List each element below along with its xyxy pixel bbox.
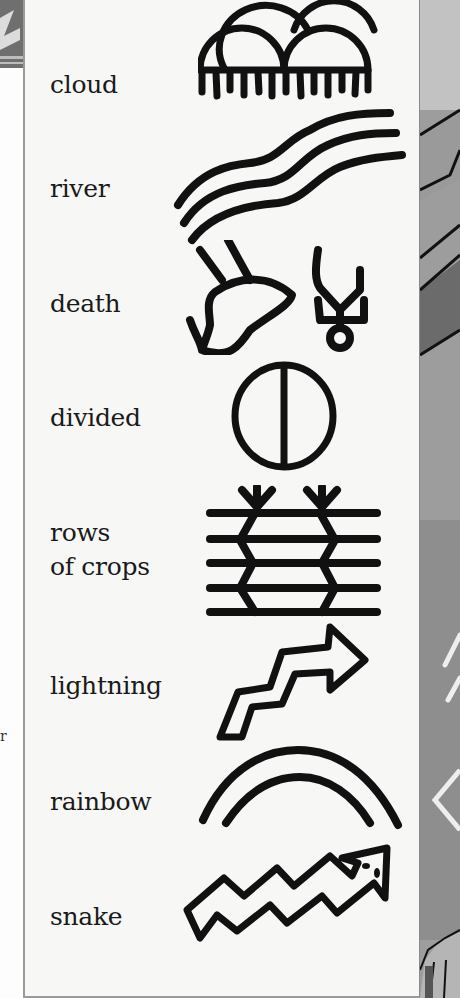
background-illustration [419,0,460,998]
rainbow-symbol-icon [198,745,408,845]
label-divided: divided [50,404,141,432]
left-page-margin [0,0,24,998]
lightning-symbol-icon [210,622,370,742]
snake-symbol-icon [182,838,392,953]
rows-of-crops-symbol-icon [205,485,385,620]
divided-circle-symbol-icon [230,360,340,475]
label-river: river [50,175,109,203]
river-symbol-icon [170,105,410,245]
label-lightning: lightning [50,672,162,700]
label-rows: rows [50,519,110,547]
death-symbol-icon [180,240,380,355]
corner-decoration [0,0,23,68]
label-of-crops: of crops [50,553,150,581]
label-death: death [50,290,120,318]
cloud-symbol-icon [198,0,388,100]
margin-mark: r [0,728,7,744]
label-snake: snake [50,903,122,931]
label-rainbow: rainbow [50,788,151,816]
label-cloud: cloud [50,71,118,99]
